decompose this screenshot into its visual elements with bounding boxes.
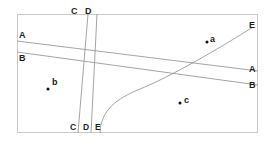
- label-left-a: A: [19, 31, 26, 40]
- label-left-b: B: [19, 54, 26, 63]
- label-bottom-d: D: [83, 123, 89, 132]
- diagram-svg: [0, 0, 274, 148]
- point-b-dot: [47, 88, 50, 91]
- curve-e: [100, 27, 253, 133]
- label-top-d: D: [85, 7, 92, 16]
- diagram-canvas: C D A B E A B C D E a b c: [0, 0, 274, 148]
- point-a-dot: [206, 41, 209, 44]
- point-label-a: a: [210, 35, 215, 44]
- point-label-b: b: [52, 78, 58, 87]
- point-c-dot: [179, 102, 182, 105]
- label-right-a: A: [249, 65, 256, 74]
- diagram-frame: [18, 15, 258, 133]
- point-label-c: c: [184, 96, 189, 105]
- label-right-b: B: [249, 81, 256, 90]
- label-right-e: E: [249, 21, 255, 30]
- line-a: [17, 41, 258, 71]
- line-d: [91, 14, 97, 133]
- label-top-c: C: [71, 7, 78, 16]
- line-c: [78, 14, 88, 133]
- label-bottom-e: E: [95, 123, 101, 132]
- label-bottom-c: C: [70, 123, 76, 132]
